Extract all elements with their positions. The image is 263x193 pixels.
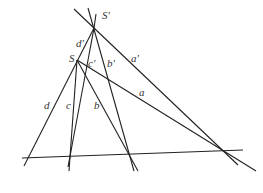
line-b_prime [88, 8, 134, 171]
label-a-prime: a' [131, 53, 139, 64]
label-S: S [69, 53, 75, 64]
label-b-prime: b' [107, 58, 115, 69]
label-c: c [66, 100, 71, 111]
line-a_prime [74, 9, 238, 165]
diagram-canvas [0, 0, 263, 193]
label-a: a [139, 87, 145, 98]
line-d_prime_ext [94, 14, 96, 28]
label-S-prime: S' [102, 10, 110, 21]
label-c-prime: c' [88, 58, 95, 69]
label-b: b [94, 100, 100, 111]
line-a [77, 60, 256, 171]
line-baseline [22, 150, 243, 158]
label-d-prime: d' [76, 38, 84, 49]
label-d: d [44, 100, 50, 111]
